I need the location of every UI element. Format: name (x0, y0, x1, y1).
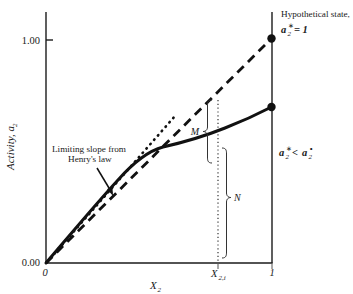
y-tick-label-1.00: 1.00 (22, 35, 40, 46)
henrys-law-arrow (97, 168, 113, 196)
hypothetical-state-equals: = 1 (294, 24, 308, 35)
activity-diagram-figure: 1.00 0.00 0 1 X 2,i X 2 Activity, a 2 M … (0, 0, 353, 294)
brace-m-path (203, 100, 212, 163)
real-state-a2: a (302, 147, 307, 158)
brace-m-label: M (190, 126, 200, 137)
real-state-sub2: 2 (309, 153, 313, 161)
brace-n-label: N (233, 192, 242, 203)
real-state-sup2: ∘ (309, 145, 313, 153)
x-tick-label-x2i-main: X (210, 268, 218, 279)
y-tick-label-0.00: 0.00 (22, 257, 40, 268)
x-tick-label-1: 1 (269, 267, 274, 278)
activity-solid-curve (46, 107, 272, 263)
real-state-less-than: < (292, 147, 298, 158)
x-tick-label-x2i: X 2,i (210, 268, 226, 282)
y-axis-title-sub: 2 (11, 123, 19, 127)
hypothetical-state-subscript: 2 (288, 30, 292, 38)
real-state-annotation: a 2 ∗ < a 2 ∘ (279, 145, 313, 161)
brace-n-group: N (222, 148, 242, 258)
real-state-sub1: 2 (286, 153, 290, 161)
x-tick-label-x2i-sub: 2,i (219, 274, 226, 282)
y-axis-title: Activity, a 2 (4, 123, 19, 171)
real-state-sup1: ∗ (286, 145, 292, 153)
henrys-law-text-line1: Limiting slope from (52, 144, 126, 154)
x-axis-title: X 2 (149, 279, 162, 294)
henrys-law-annotation: Limiting slope from Henry's law (52, 144, 126, 196)
hypothetical-state-annotation: Hypothetical state, a 2 ∗ = 1 (281, 9, 350, 38)
hypothetical-state-superscript: ∗ (288, 22, 294, 30)
x-axis-title-sub: 2 (158, 286, 162, 294)
y-axis-title-main: Activity, a (4, 126, 16, 171)
hypothetical-state-endpoint-dot (267, 34, 275, 42)
hypothetical-state-text: Hypothetical state, (281, 9, 350, 19)
actual-activity-endpoint-dot (267, 103, 275, 111)
hypothetical-state-a: a (281, 24, 286, 35)
brace-n-path (222, 148, 231, 258)
x-tick-label-0: 0 (42, 267, 48, 278)
henrys-law-text-line2: Henry's law (68, 154, 112, 164)
real-state-a1: a (279, 147, 284, 158)
hypothetical-state-formula: a 2 ∗ = 1 (281, 22, 308, 38)
